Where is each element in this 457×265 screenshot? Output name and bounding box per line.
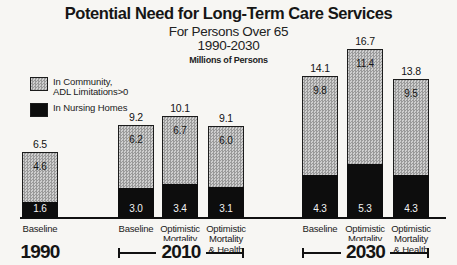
total-value-label: 14.1 — [290, 62, 350, 74]
bar-2030-optimistic-mortality — [347, 49, 383, 218]
year-bracket-tick-right — [242, 248, 244, 258]
year-label: 1990 — [15, 241, 64, 262]
chart-units-label: Millions of Persons — [0, 55, 457, 65]
year-bracket-tick-left — [118, 248, 120, 258]
total-value-label: 9.1 — [196, 112, 256, 124]
nursing-value-label: 3.1 — [208, 203, 244, 214]
total-value-label: 13.8 — [381, 65, 441, 77]
total-value-label: 16.7 — [335, 35, 395, 47]
legend-label-community: In Community, ADL Limitations>0 — [53, 77, 128, 98]
nursing-value-label: 4.3 — [302, 203, 338, 214]
year-bracket-tick-right — [427, 248, 429, 258]
community-value-label: 9.8 — [302, 85, 338, 96]
chart-figure: Potential Need for Long-Term Care Servic… — [0, 0, 457, 265]
year-group-label-wrap: 2030 — [326, 241, 406, 263]
year-label: 2010 — [156, 241, 205, 262]
nursing-value-label: 3.4 — [162, 203, 198, 214]
year-group-label-wrap: 2010 — [141, 241, 221, 263]
community-value-label: 9.5 — [393, 88, 429, 99]
community-value-label: 6.2 — [118, 134, 154, 145]
nursing-value-label: 3.0 — [118, 203, 154, 214]
nursing-value-label: 4.3 — [393, 203, 429, 214]
year-bracket-tick-left — [302, 248, 304, 258]
community-value-label: 4.6 — [22, 161, 58, 172]
community-swatch-icon — [30, 77, 48, 91]
community-value-label: 11.4 — [347, 58, 383, 69]
year-group-label-wrap: 1990 — [0, 241, 80, 263]
nursing-value-label: 1.6 — [22, 203, 58, 214]
bar-2030-baseline — [302, 76, 338, 218]
community-value-label: 6.7 — [162, 125, 198, 136]
chart-title: Potential Need for Long-Term Care Servic… — [0, 4, 457, 23]
bar-2030-optimistic-mortality-&-health — [393, 79, 429, 218]
nursing-swatch-icon — [30, 103, 48, 117]
total-value-label: 6.5 — [10, 138, 70, 150]
legend-item-community: In Community, ADL Limitations>0 — [30, 77, 128, 98]
year-label: 2030 — [341, 241, 390, 262]
category-label: Baseline — [5, 224, 75, 234]
nursing-value-label: 5.3 — [347, 203, 383, 214]
community-value-label: 6.0 — [208, 135, 244, 146]
